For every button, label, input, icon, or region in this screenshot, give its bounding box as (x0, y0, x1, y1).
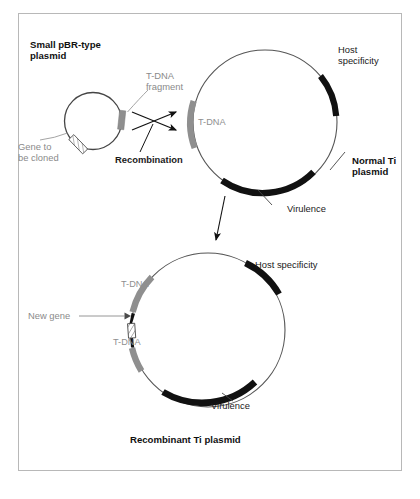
recombination-symbol (132, 112, 176, 152)
recombinant-new-gene-label: New gene (28, 310, 70, 321)
recombination-label: Recombination (115, 154, 183, 165)
recombinant-host-specificity-label: Host specificity (255, 259, 318, 270)
normal-host-specificity-arc (321, 76, 337, 116)
t-dna-fragment-label-line1: T-DNA (146, 70, 175, 81)
small-pbr-plasmid-group (40, 90, 148, 154)
t-dna-fragment-leader-line (128, 90, 149, 112)
normal-ti-plasmid-title-line2: plasmid (352, 166, 388, 177)
figure-root: Small pBR-type plasmid T-DNA fragment Ge… (0, 0, 420, 499)
gene-to-be-cloned-leader-line (40, 133, 68, 140)
t-dna-fragment-segment (118, 110, 126, 130)
normal-ti-plasmid-title-line1: Normal Ti (352, 155, 396, 166)
gene-to-be-cloned-label-line1: Gene to (18, 141, 51, 152)
t-dna-fragment-label-line2: fragment (146, 81, 183, 92)
recombinant-virulence-label: Virulence (211, 400, 250, 411)
recombinant-t-dna-lower-label: T-DNA (113, 337, 141, 347)
normal-t-dna-label: T-DNA (198, 117, 226, 127)
recombinant-ti-plasmid-group (79, 253, 285, 407)
recombination-leader-line (140, 124, 153, 152)
normal-virulence-label: Virulence (287, 203, 326, 214)
normal-host-specificity-label-line2: specificity (338, 55, 379, 66)
small-plasmid-title-line2: plasmid (30, 50, 66, 61)
process-flow-arrow (216, 196, 225, 240)
normal-ti-plasmid-group (190, 50, 345, 205)
normal-virulence-arc (222, 172, 314, 193)
recombinant-new-gene-leader-arrowhead (125, 313, 132, 320)
recombinant-t-dna-lower-arc (132, 348, 142, 371)
gene-to-be-cloned-label-line2: be cloned (18, 152, 59, 163)
recombinant-ti-plasmid-caption: Recombinant Ti plasmid (130, 434, 241, 445)
normal-ti-title-leader-line (330, 152, 345, 170)
recombinant-new-gene-segment (128, 323, 136, 338)
normal-t-dna-arc (190, 101, 194, 148)
normal-host-specificity-label-line1: Host (338, 44, 358, 55)
gene-to-be-cloned-segment (69, 135, 88, 154)
plasmid-recombination-diagram: Small pBR-type plasmid T-DNA fragment Ge… (0, 0, 420, 499)
small-plasmid-title-line1: Small pBR-type (30, 39, 101, 50)
recombinant-t-dna-upper-label: T-DNA (121, 279, 149, 289)
